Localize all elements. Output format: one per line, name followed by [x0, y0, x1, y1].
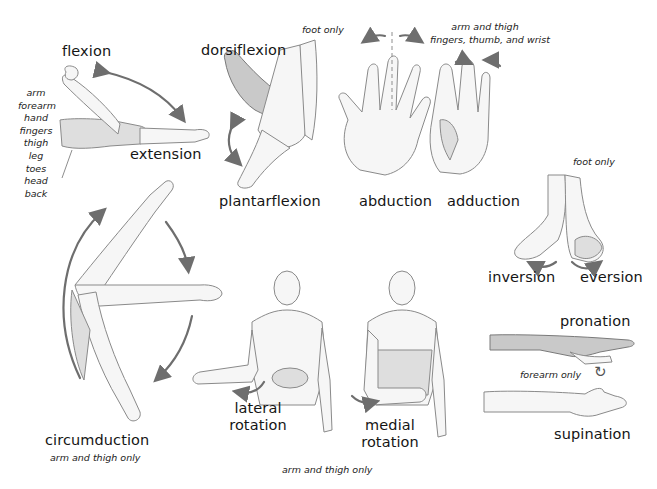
flexion-label: flexion	[62, 43, 111, 60]
abduction-right-arrow-icon	[400, 35, 419, 40]
lateral-rotation-label: lateral rotation	[213, 400, 303, 434]
supination-forearm-drawing	[484, 388, 626, 416]
dorsiflexion-label: dorsiflexion	[201, 42, 286, 59]
adduction-left-arrow-icon	[488, 60, 500, 66]
circumduction-down-arrow-icon	[158, 316, 192, 378]
rotation-note: arm and thigh only	[282, 464, 372, 477]
flexion-parts-list: arm forearm hand fingers thigh leg toes …	[18, 87, 54, 200]
eversion-arrow-icon	[572, 262, 598, 268]
part-back: back	[18, 188, 54, 201]
inversion-eversion-feet-drawing	[515, 175, 604, 262]
abduction-adduction-note: arm and thigh fingers, thumb, and wrist	[430, 21, 540, 46]
circumduction-arm-drawing	[71, 181, 222, 421]
pronation-label: pronation	[560, 313, 630, 330]
part-forearm: forearm	[18, 100, 54, 113]
part-toes: toes	[18, 163, 54, 176]
dorsiflexion-arrow-icon	[229, 125, 238, 162]
dorsiflexion-foot-drawing	[224, 40, 317, 188]
abduction-label: abduction	[359, 193, 432, 210]
part-head: head	[18, 175, 54, 188]
part-leg: leg	[18, 150, 54, 163]
flexion-arrow-icon	[105, 72, 182, 118]
plantarflexion-label: plantarflexion	[219, 193, 321, 210]
part-hand: hand	[18, 112, 54, 125]
part-thigh: thigh	[18, 137, 54, 150]
adduction-hand-drawing	[430, 60, 490, 174]
supination-label: supination	[554, 426, 631, 443]
inversion-eversion-note: foot only	[573, 156, 615, 169]
inversion-arrow-icon	[532, 262, 556, 267]
medial-rotation-label: medial rotation	[350, 417, 430, 451]
lateral-rotation-line-2: rotation	[213, 417, 303, 434]
abduction-left-arrow-icon	[366, 35, 385, 40]
circumduction-note: arm and thigh only	[50, 452, 140, 465]
part-arm: arm	[18, 87, 54, 100]
extension-label: extension	[130, 146, 202, 163]
adduction-right-arrow-icon	[456, 61, 468, 63]
pronation-forearm-drawing	[490, 335, 634, 364]
inversion-label: inversion	[488, 269, 555, 286]
note-line-2: fingers, thumb, and wrist	[430, 34, 540, 47]
part-fingers: fingers	[18, 125, 54, 138]
illustration-layer	[0, 0, 657, 489]
medial-rotation-line-1: medial	[350, 417, 430, 434]
circumduction-right-arrow-icon	[166, 222, 188, 268]
note-line-1: arm and thigh	[430, 21, 540, 34]
lateral-rotation-line-1: lateral	[213, 400, 303, 417]
rotate-icon: ↻	[594, 364, 607, 381]
dorsiflexion-note: foot only	[302, 24, 344, 37]
eversion-label: eversion	[580, 269, 643, 286]
abduction-hand-drawing	[339, 32, 430, 175]
adduction-label: adduction	[447, 193, 520, 210]
circumduction-label: circumduction	[45, 432, 149, 449]
medial-rotation-figure-drawing	[364, 271, 446, 437]
pronation-supination-note: forearm only	[520, 369, 581, 382]
medial-rotation-line-2: rotation	[350, 434, 430, 451]
